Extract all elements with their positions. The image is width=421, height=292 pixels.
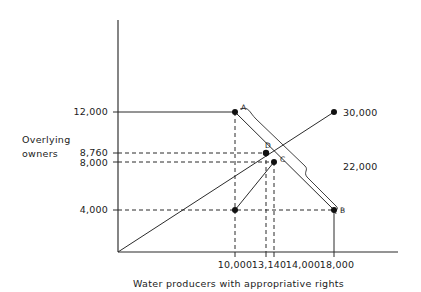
point-label-d: D: [265, 141, 271, 150]
ytick-label-8000: 8,000: [80, 157, 108, 168]
chart-figure: A D C B 12,000 8,760 8,000 4,000 10,000 …: [0, 0, 421, 292]
annotation-30000: 30,000: [343, 107, 377, 118]
xtick-label-14000: 14,000: [286, 259, 320, 270]
annotation-22000: 22,000: [343, 161, 377, 172]
series-line-30000: [118, 112, 334, 252]
point-label-a: A: [241, 103, 247, 112]
xtick-label-10000: 10,000: [218, 259, 252, 270]
data-point-b: [331, 207, 337, 213]
ytick-label-4000: 4,000: [80, 204, 108, 215]
xtick-label-13140: 13,140: [252, 259, 286, 270]
y-axis-title-line2: owners: [22, 148, 58, 159]
chart-svg: A D C B 12,000 8,760 8,000 4,000 10,000 …: [0, 0, 421, 292]
data-point-d: [263, 150, 269, 156]
data-point-c: [271, 159, 277, 165]
series-line-e-to-c: [235, 162, 274, 210]
ytick-label-12000: 12,000: [74, 106, 108, 117]
data-point-f-30000: [331, 109, 337, 115]
xtick-label-18000: 18,000: [320, 259, 354, 270]
data-point-e: [232, 207, 238, 213]
point-label-b: B: [340, 206, 345, 215]
point-label-c: C: [280, 155, 285, 164]
data-point-a: [232, 109, 238, 115]
x-axis-title: Water producers with appropriative right…: [133, 278, 344, 289]
y-axis-title-line1: Overlying: [22, 134, 71, 145]
brace-22000: [240, 108, 337, 214]
